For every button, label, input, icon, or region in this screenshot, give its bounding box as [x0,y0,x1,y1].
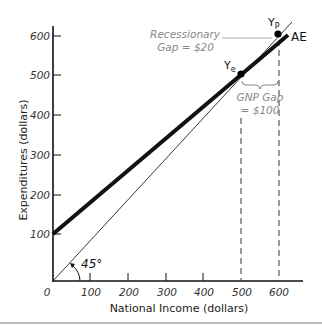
y-tick-500: 500 [30,69,50,81]
x-tick-500: 500 [232,286,252,298]
y-tick-600: 600 [30,30,50,42]
x-tick-400: 400 [194,286,214,298]
x-ticks [90,273,203,281]
chart: 600 500 400 300 200 100 0 100 200 300 40… [0,0,322,330]
ye-label: Ye [223,59,236,74]
recessionary-gap-line1: Recessionary [150,28,221,40]
gnp-gap-line1: GNP Gap [237,91,284,103]
y-tick-labels: 600 500 400 300 200 100 [30,30,50,240]
ae-label: AE [291,30,307,44]
x-tick-300: 300 [157,286,177,298]
y-tick-400: 400 [30,109,50,121]
gnp-gap-line2: = $100 [241,104,280,116]
ae-line [53,35,288,234]
x-tick-600: 600 [269,286,289,298]
ye-point [237,70,244,77]
gnp-gap-brace [242,81,278,89]
angle-label: 45° [81,257,102,271]
angle-arc [72,265,80,281]
recessionary-gap-line2: Gap = $20 [157,41,214,53]
x-tick-0: 0 [44,286,51,298]
y-axis-title: Expenditures (dollars) [17,99,30,220]
yp-point [274,30,281,37]
y-ticks [53,36,61,234]
y-tick-300: 300 [30,149,50,161]
x-tick-100: 100 [81,286,101,298]
x-tick-200: 200 [119,286,139,298]
y-tick-100: 100 [30,228,50,240]
yp-label: YP [267,16,280,31]
x-tick-labels: 0 100 200 300 400 500 600 [44,286,290,298]
x-axis-title: National Income (dollars) [110,302,249,315]
y-tick-200: 200 [30,189,50,201]
